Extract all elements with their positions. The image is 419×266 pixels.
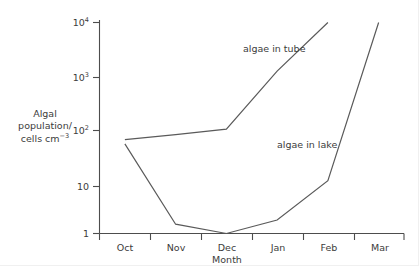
annotation-algae-in-lake: algae in lake [277, 139, 337, 150]
x-label-nov: Nov [167, 242, 186, 253]
x-label-dec: Dec [218, 242, 236, 253]
y-tick-label-10: 10 [77, 181, 89, 192]
y-tick-label-1000: 103 [73, 71, 89, 83]
series-line-algae-in-tube [125, 23, 328, 140]
x-axis-title: Month [212, 254, 242, 265]
x-label-feb: Feb [321, 242, 338, 253]
x-label-mar: Mar [371, 242, 389, 253]
series-line-algae-in-lake [125, 23, 379, 234]
chart-plot-area: 104 103 102 10 1 Oct Nov Dec Jan Feb Mar… [0, 0, 419, 266]
annotation-algae-in-tube: algae in tube [243, 43, 306, 54]
x-label-oct: Oct [117, 242, 134, 253]
y-tick-label-1: 1 [83, 228, 89, 239]
x-label-jan: Jan [270, 242, 286, 253]
y-tick-label-10000: 104 [73, 16, 89, 28]
y-tick-label-100: 102 [73, 124, 89, 136]
chart-figure: Algal population/ cells cm−3 104 103 102… [0, 0, 419, 266]
